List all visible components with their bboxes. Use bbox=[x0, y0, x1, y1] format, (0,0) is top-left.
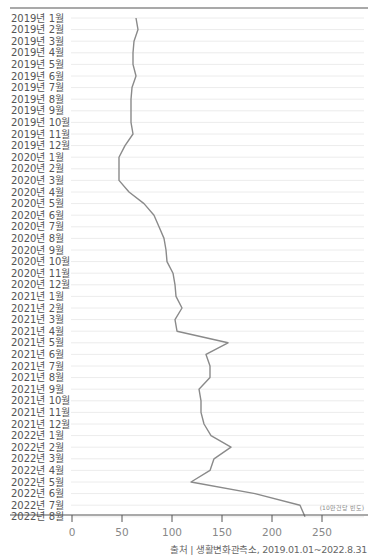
x-tick-label: 250 bbox=[312, 526, 332, 538]
row-label: 2019년 6월 bbox=[11, 71, 64, 82]
row-label: 2020년 5월 bbox=[11, 198, 64, 209]
row-label: 2020년 10월 bbox=[11, 256, 70, 267]
x-tick-label: 0 bbox=[69, 526, 76, 538]
line-chart: 2019년 1월2019년 2월2019년 3월2019년 4월2019년 5월… bbox=[0, 0, 377, 558]
row-label: 2020년 1월 bbox=[11, 152, 64, 163]
row-label: 2020년 12월 bbox=[11, 279, 70, 290]
row-label: 2020년 9월 bbox=[11, 245, 64, 256]
row-label: 2021년 8월 bbox=[11, 372, 64, 383]
row-label: 2019년 5월 bbox=[11, 59, 64, 70]
x-tick-label: 150 bbox=[212, 526, 232, 538]
row-label: 2021년 1월 bbox=[11, 291, 64, 302]
row-label: 2020년 4월 bbox=[11, 187, 64, 198]
x-tick-label: 200 bbox=[262, 526, 282, 538]
row-label: 2020년 7월 bbox=[11, 221, 64, 232]
row-label: 2019년 12월 bbox=[11, 140, 70, 151]
row-label: 2021년 11월 bbox=[11, 407, 70, 418]
row-label: 2019년 3월 bbox=[11, 36, 64, 47]
row-label: 2019년 1월 bbox=[11, 13, 64, 24]
x-tick-label: 100 bbox=[162, 526, 182, 538]
row-label: 2021년 7월 bbox=[11, 361, 64, 372]
data-line bbox=[119, 18, 305, 517]
row-label: 2021년 12월 bbox=[11, 419, 70, 430]
x-axis-ticks: 050100150200250 bbox=[69, 515, 332, 538]
row-label: 2022년 2월 bbox=[11, 442, 64, 453]
row-label: 2021년 3월 bbox=[11, 314, 64, 325]
row-label: 2019년 7월 bbox=[11, 82, 64, 93]
row-label: 2022년 3월 bbox=[11, 453, 64, 464]
unit-note: (10만건당 빈도) bbox=[320, 504, 364, 511]
row-label: 2019년 11월 bbox=[11, 129, 70, 140]
row-label: 2022년 5월 bbox=[11, 477, 64, 488]
row-label: 2019년 8월 bbox=[11, 94, 64, 105]
row-label: 2019년 10월 bbox=[11, 117, 70, 128]
row-labels: 2019년 1월2019년 2월2019년 3월2019년 4월2019년 5월… bbox=[11, 13, 70, 523]
row-label: 2021년 9월 bbox=[11, 384, 64, 395]
gridlines bbox=[71, 18, 364, 517]
x-tick-label: 50 bbox=[115, 526, 128, 538]
row-label: 2022년 4월 bbox=[11, 465, 64, 476]
row-label: 2021년 5월 bbox=[11, 337, 64, 348]
row-label: 2020년 2월 bbox=[11, 163, 64, 174]
row-label: 2020년 3월 bbox=[11, 175, 64, 186]
row-label: 2022년 6월 bbox=[11, 488, 64, 499]
row-label: 2020년 6월 bbox=[11, 210, 64, 221]
row-label: 2021년 10월 bbox=[11, 395, 70, 406]
row-label: 2021년 4월 bbox=[11, 326, 64, 337]
row-label: 2022년 7월 bbox=[11, 500, 64, 511]
row-label: 2020년 8월 bbox=[11, 233, 64, 244]
source-caption: 출처 | 생활변화관측소, 2019.01.01~2022.8.31 bbox=[170, 542, 367, 556]
row-label: 2022년 1월 bbox=[11, 430, 64, 441]
row-label: 2020년 11월 bbox=[11, 268, 70, 279]
row-label: 2019년 4월 bbox=[11, 47, 64, 58]
row-label: 2019년 2월 bbox=[11, 24, 64, 35]
row-label: 2021년 6월 bbox=[11, 349, 64, 360]
row-label: 2019년 9월 bbox=[11, 105, 64, 116]
row-label: 2022년 8월 bbox=[11, 511, 64, 522]
row-label: 2021년 2월 bbox=[11, 303, 64, 314]
